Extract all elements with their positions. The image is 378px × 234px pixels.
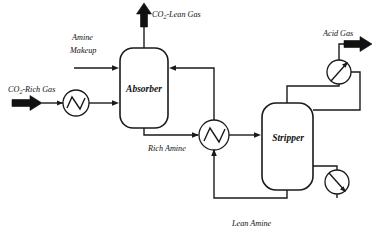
label-amine-makeup-line2: Makeup [69, 46, 96, 55]
label-amine-makeup-line1: Amine [71, 33, 93, 42]
pipe-lean-amine-to-absorber [174, 68, 214, 120]
arrow-lean-amine-into-absorber [169, 65, 176, 71]
pipe-rich-amine [144, 128, 198, 135]
label-co2-lean-gas: CO2-Lean Gas [152, 10, 201, 20]
arrow-into-stripper [254, 132, 261, 138]
process-flow-diagram: Absorber Stripper [0, 0, 378, 234]
label-lean-amine: Lean Amine [231, 219, 272, 228]
stripper-label: Stripper [272, 133, 304, 143]
acid-gas-block-arrow [344, 37, 372, 52]
cross-exchanger-icon [199, 120, 229, 150]
label-acid-gas: Acid Gas [322, 29, 353, 38]
arrow-rich-gas-cooler [57, 100, 63, 105]
pipe-stripper-to-reboiler [313, 166, 337, 170]
absorber-label: Absorber [125, 84, 162, 94]
pipe-stripper-overhead [287, 84, 339, 103]
feed-cooler-icon [63, 90, 89, 116]
co2-rich-gas-block-arrow [12, 96, 42, 111]
pipe-condenser-to-acid-gas [339, 44, 344, 60]
arrow-rich-amine-into-exchanger [192, 132, 199, 138]
label-rich-amine: Rich Amine [147, 144, 186, 153]
overhead-condenser-icon [327, 60, 351, 84]
arrow-gas-into-absorber [112, 100, 119, 106]
arrow-amine-makeup-into-absorber [112, 65, 119, 71]
label-co2-rich-gas: CO2-Rich Gas [8, 85, 55, 95]
stripper-vessel [262, 103, 313, 190]
reboiler-icon [325, 170, 349, 194]
co2-lean-gas-block-arrow [137, 3, 152, 27]
pfd-canvas: Absorber Stripper [0, 0, 378, 234]
